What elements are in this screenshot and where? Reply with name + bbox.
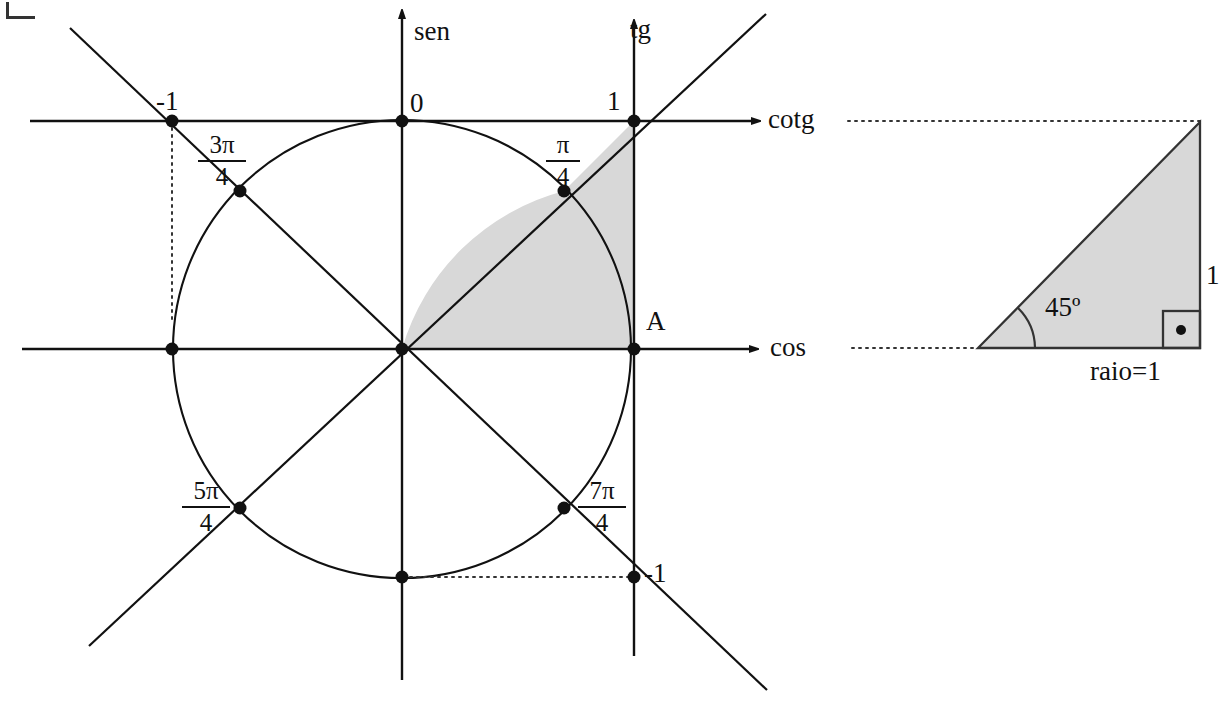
five-pi-over-4-numerator: 5π bbox=[182, 478, 230, 505]
seven-pi-over-4-denominator: 4 bbox=[578, 509, 626, 536]
point-circle-bottom bbox=[396, 571, 409, 584]
sen-axis-label: sen bbox=[414, 18, 450, 45]
point-origin bbox=[396, 343, 409, 356]
seven-pi-over-4-bar bbox=[578, 506, 626, 508]
point-circle-top bbox=[396, 115, 409, 128]
five-pi-over-4-bar bbox=[182, 506, 230, 508]
point-circle-left bbox=[166, 343, 179, 356]
seven-pi-over-4-numerator: 7π bbox=[578, 478, 626, 505]
tg-axis-label: tg bbox=[630, 16, 651, 43]
five-pi-over-4-denominator: 4 bbox=[182, 509, 230, 536]
right-angle-dot bbox=[1176, 325, 1186, 335]
diagonal-3pi4-line bbox=[70, 28, 767, 690]
triangle-height-label: 1 bbox=[1206, 262, 1220, 289]
three-pi-over-4-numerator: 3π bbox=[198, 132, 246, 159]
angle-label-seven-pi-over-4: 7π 4 bbox=[578, 478, 626, 535]
point-cotg-one bbox=[628, 115, 641, 128]
pi-over-4-bar bbox=[546, 160, 580, 162]
triangle-base-label: raio=1 bbox=[1090, 358, 1161, 385]
cotg-zero-label: 0 bbox=[410, 90, 424, 117]
figure-canvas: sen cotg tg cos -1 0 1 -1 A π 4 3π 4 5π … bbox=[0, 0, 1224, 701]
pi-over-4-numerator: π bbox=[546, 132, 580, 159]
tg-minus-one-label: -1 bbox=[644, 560, 667, 587]
point-five-pi-over-4 bbox=[234, 502, 247, 515]
point-a bbox=[628, 343, 641, 356]
pi-over-4-denominator: 4 bbox=[546, 163, 580, 190]
angle-label-five-pi-over-4: 5π 4 bbox=[182, 478, 230, 535]
point-cotg-minus-one bbox=[166, 115, 179, 128]
point-tg-minus-one bbox=[628, 571, 641, 584]
shaded-region bbox=[402, 121, 634, 349]
reference-triangle bbox=[978, 122, 1200, 348]
cotg-minus-one-label: -1 bbox=[156, 88, 179, 115]
cotg-axis-label: cotg bbox=[768, 106, 815, 133]
angle-label-pi-over-4: π 4 bbox=[546, 132, 580, 189]
cotg-one-label: 1 bbox=[607, 88, 621, 115]
angle-label-three-pi-over-4: 3π 4 bbox=[198, 132, 246, 189]
three-pi-over-4-bar bbox=[198, 160, 246, 162]
three-pi-over-4-denominator: 4 bbox=[198, 163, 246, 190]
triangle-angle-label: 45º bbox=[1045, 294, 1080, 321]
point-seven-pi-over-4 bbox=[558, 502, 571, 515]
point-a-label: A bbox=[646, 308, 666, 335]
cos-axis-label: cos bbox=[770, 334, 806, 361]
